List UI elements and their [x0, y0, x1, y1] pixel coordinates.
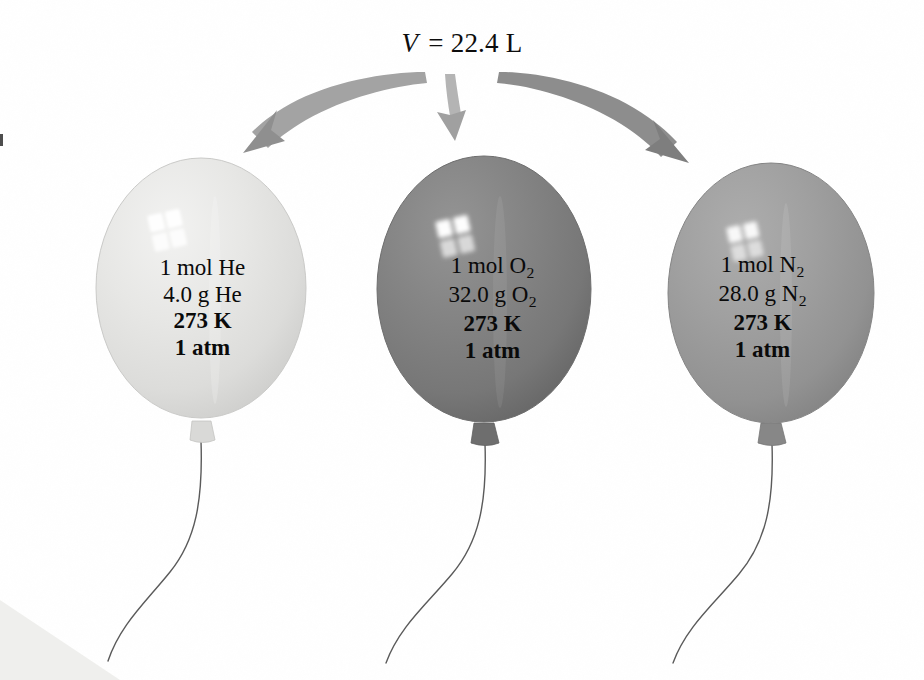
- label-line-pressure: 1 atm: [115, 335, 290, 362]
- label-line-amount: 1 mol O2: [405, 253, 580, 282]
- balloon-knot-oxygen: [471, 423, 499, 446]
- label-line-amount: 1 mol N2: [675, 252, 850, 281]
- balloon-label-helium: 1 mol He 4.0 g He 273 K 1 atm: [115, 255, 290, 362]
- balloon-knot-helium: [190, 421, 215, 443]
- label-line-mass: 32.0 g O2: [405, 282, 580, 311]
- label-line-amount: 1 mol He: [115, 255, 290, 282]
- subscript-2: 2: [798, 292, 806, 309]
- volume-value: 22.4 L: [451, 28, 523, 58]
- volume-variable: V: [402, 28, 422, 58]
- label-line-temperature: 273 K: [675, 310, 850, 337]
- balloon-label-oxygen: 1 mol O2 32.0 g O2 273 K 1 atm: [405, 253, 580, 365]
- volume-caption: V=22.4 L: [0, 28, 924, 59]
- avogadro-balloons-figure: V=22.4 L 1 mol He 4.0 g He 273 K 1 atm 1…: [0, 0, 924, 680]
- label-line-mass: 4.0 g He: [115, 282, 290, 309]
- label-line-pressure: 1 atm: [675, 337, 850, 364]
- label-line-temperature: 273 K: [405, 311, 580, 338]
- subscript-2: 2: [526, 264, 534, 281]
- scan-artifact-speck: [0, 134, 3, 146]
- balloon-knot-nitrogen: [758, 423, 786, 446]
- subscript-2: 2: [528, 293, 536, 310]
- label-line-mass: 28.0 g N2: [675, 281, 850, 310]
- balloon-label-nitrogen: 1 mol N2 28.0 g N2 273 K 1 atm: [675, 252, 850, 364]
- label-line-pressure: 1 atm: [405, 338, 580, 365]
- label-line-temperature: 273 K: [115, 308, 290, 335]
- volume-equals-sign: =: [421, 28, 450, 58]
- subscript-2: 2: [796, 263, 804, 280]
